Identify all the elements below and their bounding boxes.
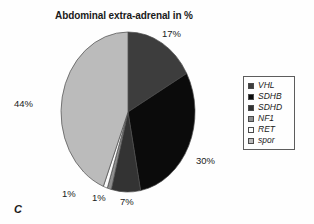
slice-label-sdhb: 30%	[196, 155, 215, 166]
chart-legend: VHL SDHB SDHD NF1 RET spor	[243, 76, 295, 150]
legend-item-spor[interactable]: spor	[248, 135, 294, 146]
pie-slice-group	[61, 32, 195, 192]
slice-label-spor: 44%	[14, 98, 33, 109]
figure-panel-c: Abdominal extra-adrenal in % 17% 30% 7% …	[0, 0, 314, 224]
legend-swatch-sdhb	[248, 94, 254, 100]
chart-title: Abdominal extra-adrenal in %	[0, 10, 248, 21]
legend-item-sdhd[interactable]: SDHD	[248, 102, 294, 113]
legend-item-sdhb[interactable]: SDHB	[248, 91, 294, 102]
pie-chart	[59, 29, 199, 195]
legend-swatch-nf1	[248, 116, 254, 122]
pie-svg	[59, 29, 199, 195]
legend-item-ret[interactable]: RET	[248, 124, 294, 135]
slice-label-ret: 1%	[62, 188, 76, 199]
legend-item-vhl[interactable]: VHL	[248, 80, 294, 91]
slice-label-vhl: 17%	[162, 28, 181, 39]
legend-label-sdhb: SDHB	[258, 91, 282, 102]
legend-label-spor: spor	[258, 135, 275, 146]
legend-label-ret: RET	[258, 124, 275, 135]
slice-label-nf1: 1%	[92, 192, 106, 203]
legend-swatch-sdhd	[248, 105, 254, 111]
legend-item-nf1[interactable]: NF1	[248, 113, 294, 124]
slice-label-sdhd: 7%	[120, 196, 134, 207]
legend-label-sdhd: SDHD	[258, 102, 282, 113]
legend-swatch-ret	[248, 127, 254, 133]
legend-swatch-spor	[248, 138, 254, 144]
legend-label-nf1: NF1	[258, 113, 274, 124]
panel-letter: C	[14, 203, 22, 215]
legend-swatch-vhl	[248, 83, 254, 89]
legend-label-vhl: VHL	[258, 80, 275, 91]
